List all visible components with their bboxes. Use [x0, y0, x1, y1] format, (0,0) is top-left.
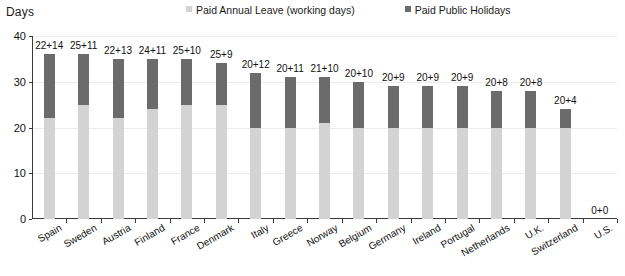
bar-value-label: 20+4	[554, 96, 577, 106]
bar-value-label: 20+9	[451, 73, 474, 83]
legend-item-paid-public-holidays[interactable]: Paid Public Holidays	[405, 5, 511, 16]
bar-segment-public-holidays[interactable]	[525, 91, 536, 128]
bar-group[interactable]: 24+11	[147, 36, 158, 219]
bar-segment-public-holidays[interactable]	[491, 91, 502, 128]
bar-group[interactable]: 25+11	[78, 36, 89, 219]
x-axis-label: Greece	[271, 222, 305, 248]
x-axis-label: Austria	[100, 222, 132, 247]
x-axis-label: U.S.	[592, 222, 614, 241]
bar-segment-public-holidays[interactable]	[560, 109, 571, 127]
bar-value-label: 21+10	[310, 64, 338, 74]
bar-segment-annual-leave[interactable]	[44, 118, 55, 219]
x-axis-label: Finland	[133, 222, 167, 248]
bar-group[interactable]: 25+9	[216, 36, 227, 219]
x-axis-label: Spain	[36, 222, 64, 244]
bar-value-label: 25+10	[173, 46, 201, 56]
stacked-bar-chart: Days Paid Annual Leave (working days) Pa…	[0, 0, 625, 276]
bar-value-label: 20+12	[242, 60, 270, 70]
bar-segment-public-holidays[interactable]	[147, 59, 158, 109]
plot-area: 010203040 22+1425+1122+1324+1125+1025+92…	[32, 36, 617, 219]
chart-legend: Paid Annual Leave (working days) Paid Pu…	[186, 5, 510, 16]
bar-group[interactable]: 20+10	[353, 36, 364, 219]
legend-item-paid-annual-leave[interactable]: Paid Annual Leave (working days)	[186, 5, 355, 16]
bar-segment-public-holidays[interactable]	[457, 86, 468, 127]
y-tick-label: 20	[14, 122, 26, 134]
legend-label-paid-public-holidays: Paid Public Holidays	[415, 5, 511, 16]
bar-segment-public-holidays[interactable]	[44, 54, 55, 118]
bar-segment-public-holidays[interactable]	[388, 86, 399, 127]
x-axis-label: U.K.	[523, 222, 545, 241]
bar-group[interactable]: 20+11	[285, 36, 296, 219]
bar-value-label: 0+0	[591, 206, 608, 216]
bar-segment-public-holidays[interactable]	[78, 54, 89, 104]
bar-segment-annual-leave[interactable]	[560, 128, 571, 220]
x-axis-label: Italy	[249, 222, 270, 241]
bar-group[interactable]: 20+9	[422, 36, 433, 219]
bar-segment-public-holidays[interactable]	[113, 59, 124, 118]
bar-segment-annual-leave[interactable]	[181, 105, 192, 219]
bar-segment-annual-leave[interactable]	[216, 105, 227, 219]
bar-value-label: 24+11	[139, 46, 166, 56]
bar-value-label: 20+8	[520, 78, 543, 88]
bar-value-label: 22+13	[104, 46, 132, 56]
bar-group[interactable]: 0+0	[594, 36, 605, 219]
bar-group[interactable]: 22+13	[113, 36, 124, 219]
bar-segment-annual-leave[interactable]	[388, 128, 399, 220]
bar-value-label: 20+10	[345, 69, 373, 79]
y-axis-title: Days	[6, 5, 34, 19]
bar-segment-annual-leave[interactable]	[250, 128, 261, 220]
bar-value-label: 20+11	[276, 64, 303, 74]
x-axis-label: Norway	[304, 222, 339, 248]
x-axis-label: Germany	[367, 222, 408, 252]
bar-group[interactable]: 20+12	[250, 36, 261, 219]
legend-swatch-paid-public-holidays	[405, 6, 411, 12]
bar-segment-annual-leave[interactable]	[491, 128, 502, 220]
bar-value-label: 20+9	[416, 73, 439, 83]
x-tick-mark	[617, 219, 618, 223]
bar-segment-public-holidays[interactable]	[285, 77, 296, 127]
y-tick-label: 10	[14, 167, 26, 179]
bar-segment-public-holidays[interactable]	[353, 82, 364, 128]
bar-group[interactable]: 20+4	[560, 36, 571, 219]
bar-segment-annual-leave[interactable]	[525, 128, 536, 220]
bar-segment-public-holidays[interactable]	[250, 73, 261, 128]
bar-group[interactable]: 25+10	[181, 36, 192, 219]
y-tick-label: 0	[20, 213, 26, 225]
bar-segment-public-holidays[interactable]	[319, 77, 330, 123]
bar-group[interactable]: 22+14	[44, 36, 55, 219]
bar-value-label: 20+9	[382, 73, 405, 83]
bar-segment-annual-leave[interactable]	[353, 128, 364, 220]
bar-segment-annual-leave[interactable]	[319, 123, 330, 219]
x-axis-labels: SpainSwedenAustriaFinlandFranceDenmarkIt…	[32, 222, 617, 276]
bar-segment-public-holidays[interactable]	[422, 86, 433, 127]
bar-segment-annual-leave[interactable]	[113, 118, 124, 219]
bar-group[interactable]: 20+8	[525, 36, 536, 219]
bar-value-label: 22+14	[35, 41, 63, 51]
bar-group[interactable]: 20+9	[457, 36, 468, 219]
bar-segment-annual-leave[interactable]	[457, 128, 468, 220]
bar-value-label: 25+9	[210, 50, 233, 60]
legend-label-paid-annual-leave: Paid Annual Leave (working days)	[196, 5, 355, 16]
bar-segment-annual-leave[interactable]	[285, 128, 296, 220]
bar-value-label: 25+11	[70, 41, 97, 51]
legend-swatch-paid-annual-leave	[186, 6, 192, 12]
bar-segment-public-holidays[interactable]	[181, 59, 192, 105]
bar-group[interactable]: 20+8	[491, 36, 502, 219]
bar-segment-annual-leave[interactable]	[78, 105, 89, 219]
x-axis-label: Sweden	[61, 222, 98, 250]
y-tick-mark	[29, 219, 32, 220]
y-tick-label: 40	[14, 30, 26, 42]
bar-segment-annual-leave[interactable]	[422, 128, 433, 220]
y-tick-label: 30	[14, 76, 26, 88]
bar-group[interactable]: 21+10	[319, 36, 330, 219]
x-axis-label: Denmark	[195, 222, 236, 252]
bar-group[interactable]: 20+9	[388, 36, 399, 219]
bar-segment-annual-leave[interactable]	[147, 109, 158, 219]
bars-layer: 22+1425+1122+1324+1125+1025+920+1220+112…	[32, 36, 617, 219]
bar-value-label: 20+8	[485, 78, 508, 88]
x-axis-label: Ireland	[410, 222, 442, 247]
bar-segment-public-holidays[interactable]	[216, 63, 227, 104]
